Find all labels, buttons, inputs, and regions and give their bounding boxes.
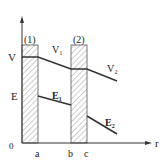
x-tick-b: b [68, 148, 73, 159]
x-tick-a: a [35, 148, 40, 159]
v1-label: V₁ [52, 44, 63, 55]
x-axis-label: r [155, 137, 159, 149]
x-axis-arrow-icon [145, 141, 152, 145]
x-tick-c: c [84, 148, 89, 159]
y-axis-arrow-icon [20, 16, 24, 23]
region-1-label: (1) [24, 34, 36, 46]
y-label-e: E [11, 90, 18, 102]
v2-label: V₂ [107, 63, 118, 74]
origin-label: 0 [9, 141, 14, 151]
e1-label: E₁ [52, 90, 62, 101]
region-2-hatch [71, 45, 87, 143]
potential-field-diagram: (1) (2) V E V₁ V₂ E₁ E₂ 0 a b c r [0, 0, 168, 162]
region-2-label: (2) [73, 34, 85, 46]
region-1-hatch [22, 45, 38, 143]
e2-label: E₂ [105, 117, 115, 128]
y-label-v: V [8, 51, 16, 63]
